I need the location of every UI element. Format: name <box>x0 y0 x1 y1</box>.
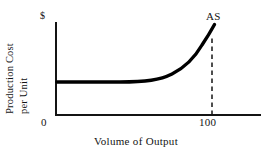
economics-supply-cost-figure: $ AS Production Cost per Unit 0 100 Volu… <box>0 0 272 156</box>
x-tick-label-100: 100 <box>199 117 216 128</box>
x-axis-title: Volume of Output <box>0 136 272 147</box>
y-axis-title-line-1: Production Cost <box>4 43 15 114</box>
x-tick-label-0: 0 <box>41 117 47 128</box>
y-axis-unit-symbol: $ <box>40 11 45 21</box>
y-axis-title: Production Cost per Unit <box>4 22 44 114</box>
y-axis-title-line-2: per Unit <box>18 78 29 114</box>
as-curve-label: AS <box>206 11 221 22</box>
